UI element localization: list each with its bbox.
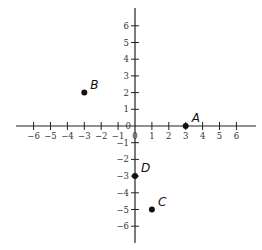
point-label: A: [191, 111, 200, 125]
point-label: D: [141, 161, 150, 175]
x-tick-label: 0: [132, 131, 137, 141]
x-tick-label: −4: [61, 131, 74, 141]
coordinate-plane: −6−5−4−3−2−10123456 −6−5−4−3−2−10123456 …: [0, 0, 262, 250]
x-tick-label: −2: [95, 131, 108, 141]
y-tick-label: 0: [126, 121, 131, 131]
point-marker: [183, 123, 189, 129]
x-tick-label: 2: [166, 131, 171, 141]
data-points: ABCD: [81, 78, 200, 213]
y-tick-label: −2: [116, 154, 129, 164]
y-tick-label: −4: [116, 188, 129, 198]
y-tick-label: 2: [124, 88, 129, 98]
point-marker: [149, 207, 155, 213]
point-label: B: [90, 78, 98, 92]
point-marker: [132, 173, 138, 179]
y-tick-label: −3: [116, 171, 129, 181]
point-marker: [81, 90, 87, 96]
x-tick-label: 1: [149, 131, 154, 141]
y-tick-label: −5: [116, 205, 129, 215]
x-tick-label: 3: [183, 131, 188, 141]
x-tick-label: −5: [44, 131, 57, 141]
point-label: C: [158, 195, 167, 209]
y-tick-label: 4: [124, 54, 129, 64]
x-tick-label: 5: [217, 131, 222, 141]
y-tick-label: −6: [116, 221, 129, 231]
point-c: C: [149, 195, 167, 213]
y-tick-label: 3: [124, 71, 129, 81]
y-tick-label: 6: [124, 21, 129, 31]
y-tick-label: 5: [124, 38, 129, 48]
x-axis-ticks: −6−5−4−3−2−10123456: [27, 122, 239, 141]
x-tick-label: 6: [234, 131, 239, 141]
y-tick-label: 1: [124, 104, 129, 114]
x-tick-label: −6: [27, 131, 40, 141]
x-tick-label: −3: [78, 131, 91, 141]
y-tick-label: −1: [116, 138, 129, 148]
point-b: B: [81, 78, 98, 96]
x-tick-label: 4: [200, 131, 205, 141]
